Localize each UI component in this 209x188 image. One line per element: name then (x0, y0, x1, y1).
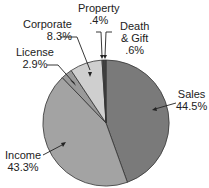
label-license: License 2.9% (16, 46, 54, 70)
property-value: .4% (78, 14, 120, 26)
death-name-2: & Gift (120, 32, 149, 44)
income-name: Income (5, 149, 41, 161)
license-name: License (16, 46, 54, 58)
sales-name: Sales (176, 88, 207, 100)
death-value: .6% (120, 44, 149, 56)
label-corporate: Corporate 8.3% (23, 18, 72, 42)
label-death-gift: Death & Gift .6% (120, 20, 149, 56)
label-sales: Sales 44.5% (176, 88, 207, 112)
arrow-death (105, 32, 112, 56)
label-property: Property .4% (78, 2, 120, 26)
death-name-1: Death (120, 20, 149, 32)
corporate-value: 8.3% (23, 30, 72, 42)
corporate-name: Corporate (23, 18, 72, 30)
property-name: Property (78, 2, 120, 14)
license-value: 2.9% (16, 58, 54, 70)
income-value: 43.3% (5, 161, 41, 173)
label-income: Income 43.3% (5, 149, 41, 173)
sales-value: 44.5% (176, 100, 207, 112)
arrow-property (96, 32, 102, 56)
